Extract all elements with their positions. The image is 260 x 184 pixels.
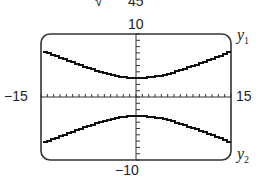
- axes: [41, 34, 231, 160]
- plot-area: [0, 0, 260, 184]
